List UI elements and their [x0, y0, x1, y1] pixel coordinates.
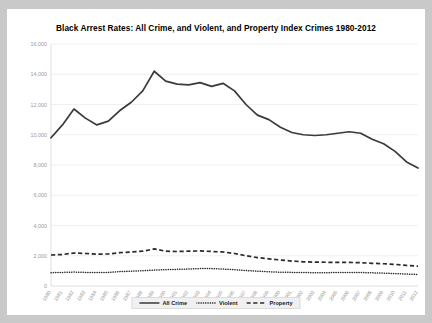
x-axis-tick-label: 1980	[41, 289, 52, 302]
legend-label: Property	[270, 300, 293, 306]
legend-swatch-dashed	[247, 300, 267, 306]
legend-swatch-dotted	[196, 300, 216, 306]
line-chart-svg: 16,00014,00012,00010,0008,0006,0004,0002…	[7, 9, 425, 315]
y-axis-tick-label: 8,000	[34, 162, 48, 168]
x-axis-tick-label: 1983	[75, 289, 86, 302]
chart-card: Black Arrest Rates: All Crime, and Viole…	[7, 9, 425, 315]
x-axis-tick-label: 2010	[385, 289, 396, 302]
x-axis-tick-label: 1982	[64, 289, 75, 302]
series-line-violent	[51, 269, 418, 275]
x-axis-tick-label: 2009	[373, 289, 384, 302]
x-axis-tick-label: 1985	[98, 289, 109, 302]
y-axis-tick-label: 2,000	[34, 253, 48, 259]
x-axis-tick-label: 2005	[327, 289, 338, 302]
x-axis-tick-label: 1981	[52, 289, 63, 302]
y-axis-tick-label: 0	[44, 283, 47, 289]
legend-item-property[interactable]: Property	[247, 300, 293, 306]
legend-swatch-solid	[139, 300, 159, 306]
y-axis-tick-label: 14,000	[31, 71, 48, 77]
x-axis-tick-label: 2006	[339, 289, 350, 302]
y-axis-tick-label: 10,000	[31, 132, 48, 138]
x-axis-tick-label: 1984	[87, 289, 98, 302]
x-axis-tick-label: 2012	[408, 289, 419, 302]
legend-label: Violent	[219, 300, 238, 306]
y-axis-tick-label: 4,000	[34, 223, 48, 229]
x-axis-tick-label: 1986	[110, 289, 121, 302]
x-axis-tick-label: 2004	[316, 289, 327, 302]
x-axis-tick-label: 2003	[305, 289, 316, 302]
legend-item-violent[interactable]: Violent	[196, 300, 238, 306]
plot-area: 16,00014,00012,00010,0008,0006,0004,0002…	[7, 9, 425, 315]
x-axis-tick-label: 2011	[396, 289, 407, 302]
x-axis-tick-label: 2008	[362, 289, 373, 302]
y-axis-tick-label: 6,000	[34, 192, 48, 198]
chart-legend: All CrimeViolentProperty	[131, 297, 300, 309]
series-line-all-crime	[51, 71, 418, 168]
legend-item-all-crime[interactable]: All Crime	[139, 300, 187, 306]
series-line-property	[51, 249, 418, 266]
x-axis-tick-label: 2007	[350, 289, 361, 302]
legend-label: All Crime	[162, 300, 187, 306]
y-axis-tick-label: 16,000	[31, 41, 48, 47]
y-axis-tick-label: 12,000	[31, 102, 48, 108]
